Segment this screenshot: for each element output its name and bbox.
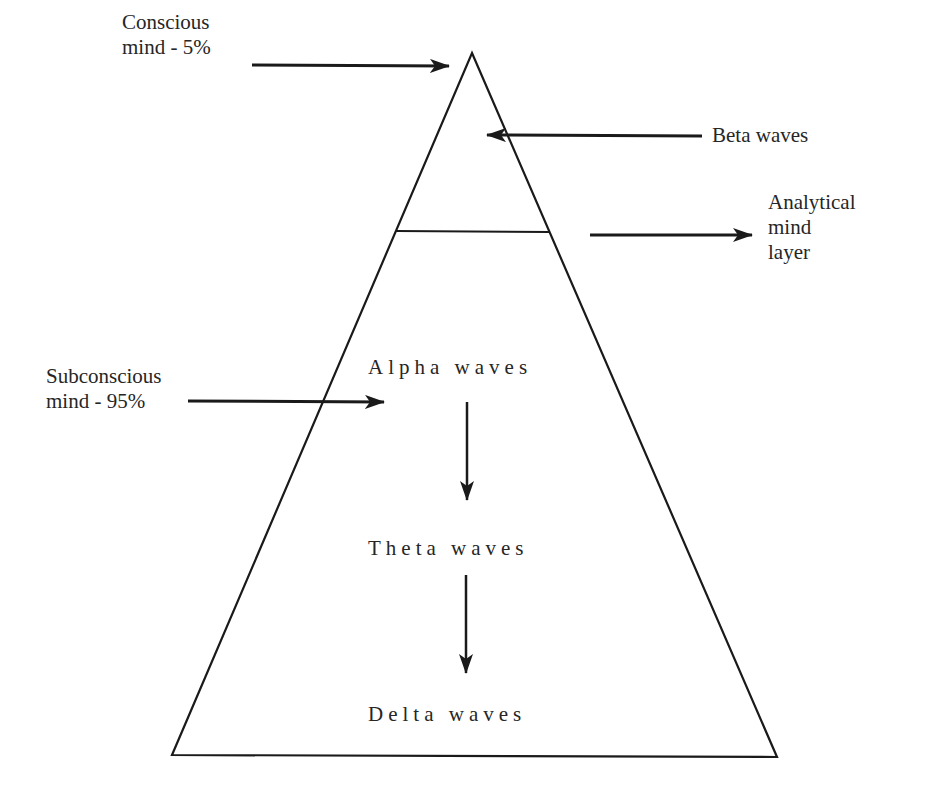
- delta-waves-label: Delta waves: [368, 702, 526, 727]
- analytical-mind-layer-label: Analytical mind layer: [768, 190, 855, 265]
- theta-waves-label: Theta waves: [368, 536, 529, 561]
- pyramid-outline: [172, 53, 777, 757]
- beta-waves-label: Beta waves: [712, 123, 808, 148]
- conscious-arrow: [252, 65, 449, 66]
- layer-divider: [396, 231, 549, 232]
- conscious-mind-label: Conscious mind - 5%: [122, 10, 211, 60]
- alpha-waves-label: Alpha waves: [368, 355, 532, 380]
- subconscious-mind-label: Subconscious mind - 95%: [46, 364, 162, 414]
- subconscious-arrow: [188, 401, 384, 402]
- beta-arrow: [487, 135, 702, 136]
